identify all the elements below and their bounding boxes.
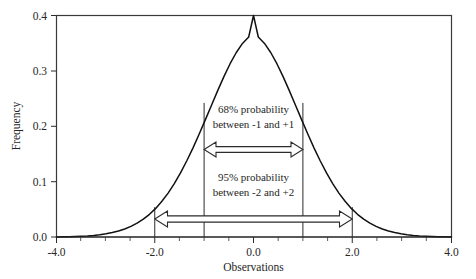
x-tick-label-minus2: -2.0 bbox=[146, 246, 164, 258]
y-tick-label-0.3: 0.3 bbox=[33, 65, 48, 77]
x-tick-label-minus4: -4.0 bbox=[47, 246, 65, 258]
y-axis-title: Frequency bbox=[10, 101, 23, 150]
annotation-95-line1: 95% probability bbox=[218, 171, 290, 183]
x-axis-title: Observations bbox=[223, 261, 284, 273]
annotation-95-line2: between -2 and +2 bbox=[213, 186, 295, 198]
annotation-68-line1: 68% probability bbox=[218, 103, 290, 115]
x-tick-label-2: 2.0 bbox=[345, 246, 360, 258]
y-tick-label-0.0: 0.0 bbox=[33, 231, 48, 243]
annotation-68-line2: between -1 and +1 bbox=[213, 118, 295, 130]
normal-distribution-figure: 0.4 0.3 0.2 0.1 0.0 Frequency bbox=[0, 0, 476, 279]
x-tick-label-4: 4.0 bbox=[444, 246, 459, 258]
x-tick-label-0: 0.0 bbox=[246, 246, 261, 258]
y-tick-label-0.4: 0.4 bbox=[33, 10, 48, 22]
y-tick-label-0.2: 0.2 bbox=[33, 120, 48, 132]
chart-svg: 0.4 0.3 0.2 0.1 0.0 Frequency bbox=[0, 0, 476, 279]
y-tick-label-0.1: 0.1 bbox=[33, 176, 48, 188]
